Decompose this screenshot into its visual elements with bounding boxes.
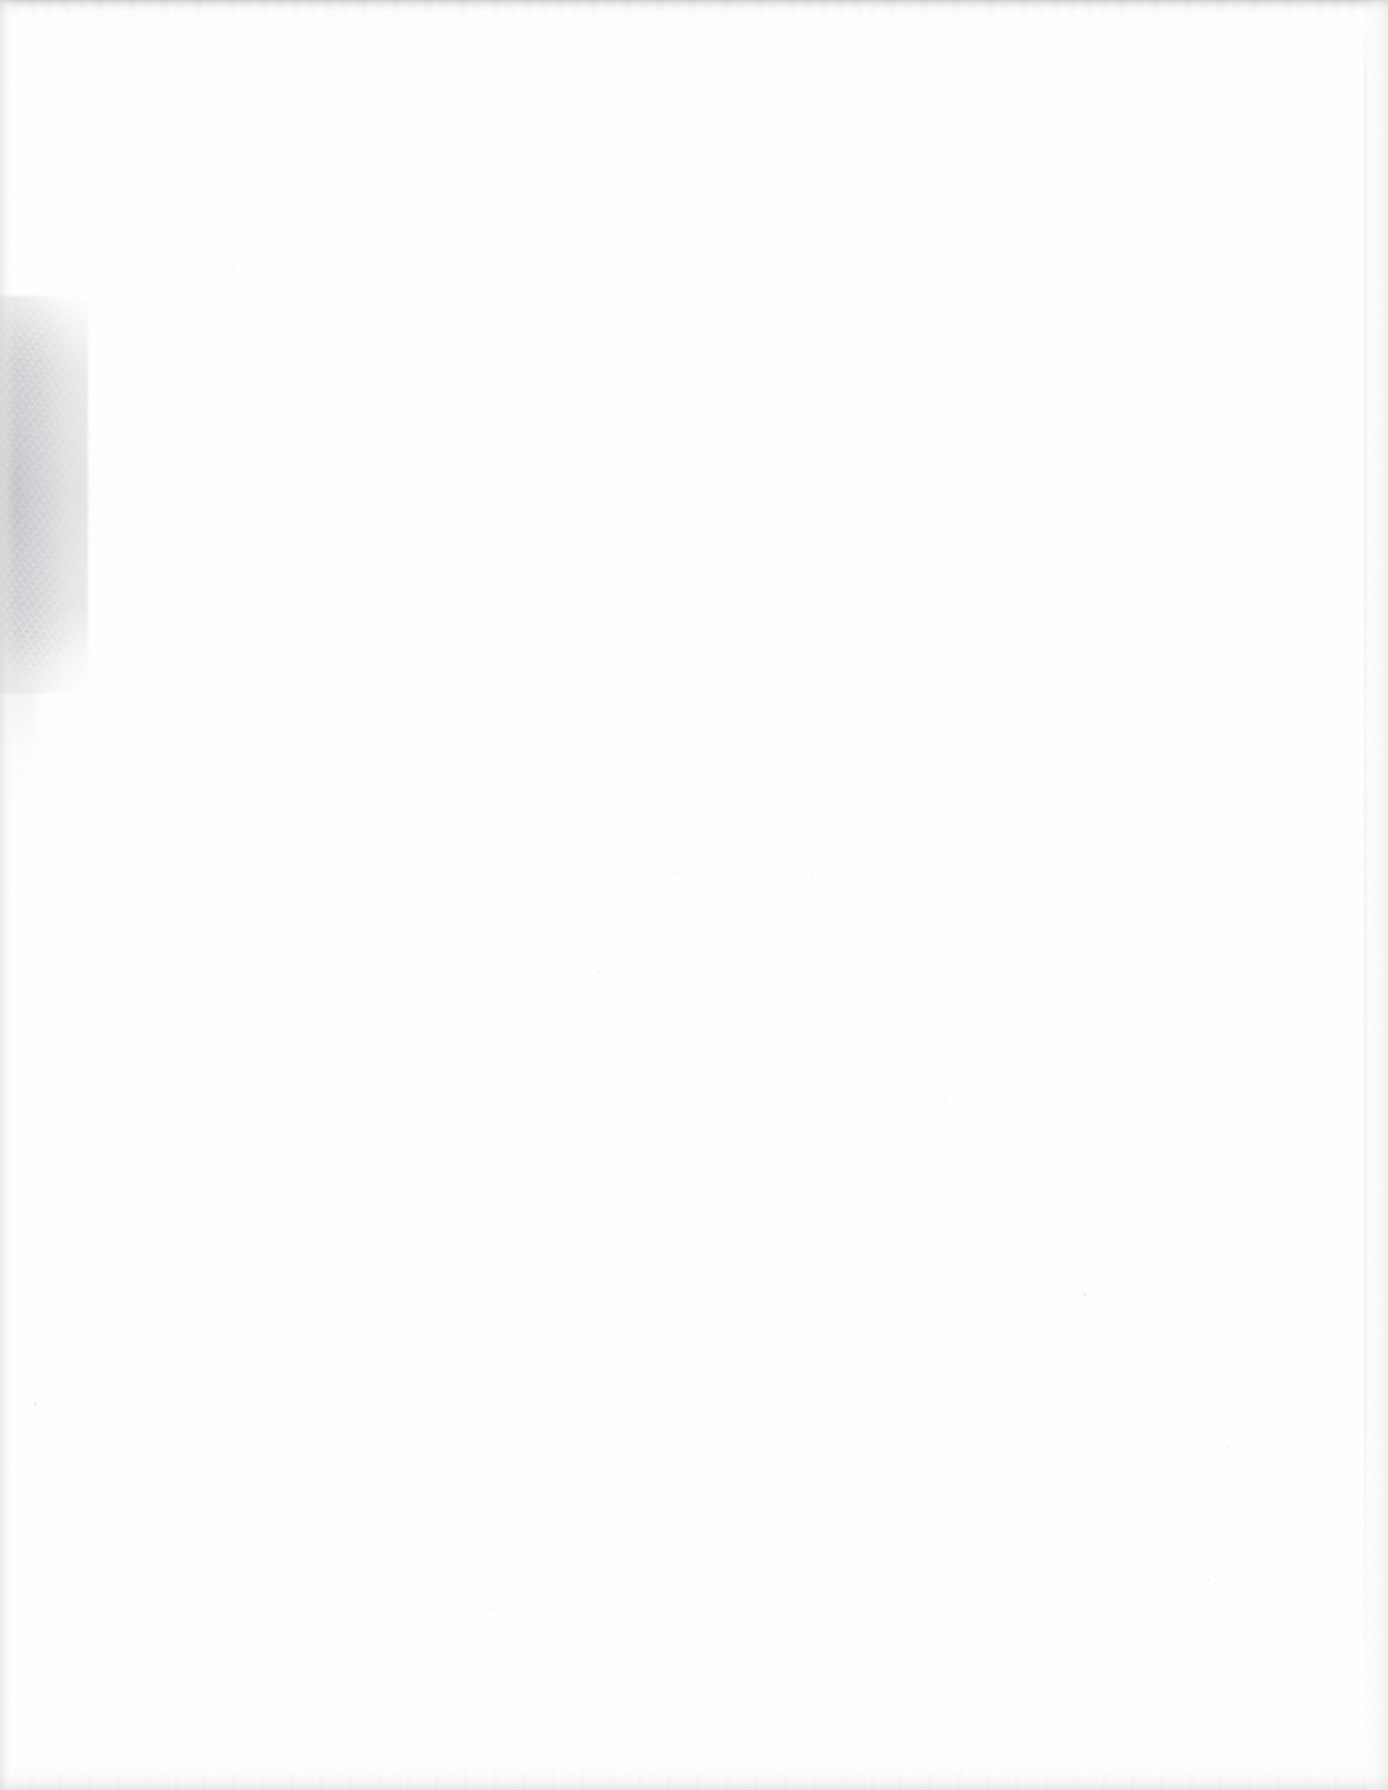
left-edge-line: [0, 0, 16, 1790]
paper-surface: [0, 0, 1388, 1790]
scanned-page: Blank scanned page: [0, 0, 1388, 1790]
top-edge-band-grain: [0, 0, 1388, 22]
right-edge-line: [1358, 0, 1388, 1790]
right-edge-seam: [1364, 0, 1367, 1790]
bottom-edge-band-grain: [0, 1760, 1388, 1790]
